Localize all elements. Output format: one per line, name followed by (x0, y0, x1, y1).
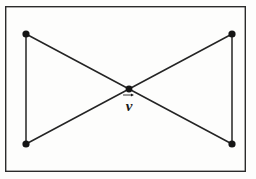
vertex-top-right (228, 30, 235, 37)
diagram-canvas (0, 0, 256, 179)
vertex-bottom-left (22, 140, 29, 147)
outer-frame (6, 7, 246, 172)
diagram-vertices (22, 30, 235, 147)
vertex-center (126, 86, 133, 93)
vector-diagram-figure: v (0, 0, 256, 179)
vertex-top-left (22, 30, 29, 37)
vertex-bottom-right (228, 140, 235, 147)
